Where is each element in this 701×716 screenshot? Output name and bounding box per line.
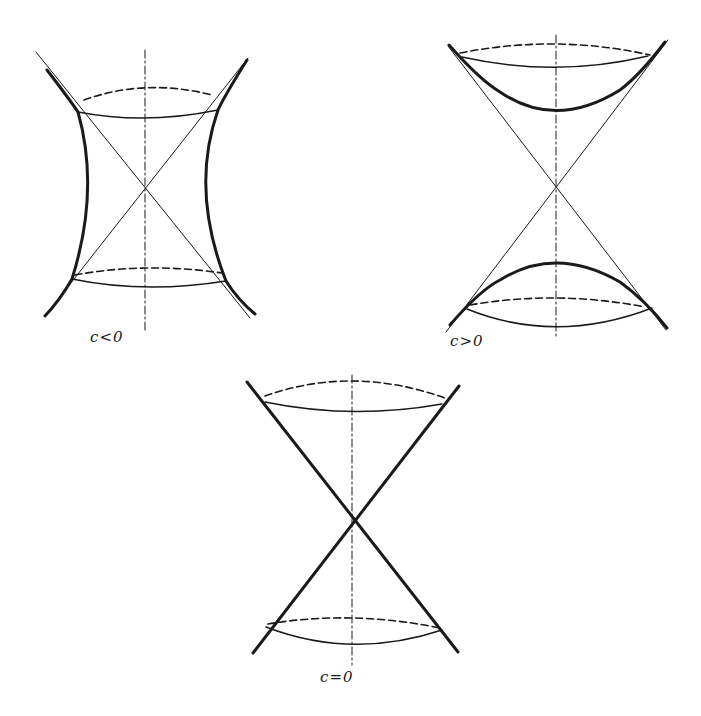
top-ellipse-front <box>265 402 442 412</box>
hyperboloid-right-profile <box>206 60 255 314</box>
bottom-ellipse-front <box>72 279 226 287</box>
top-ellipse-back <box>460 44 650 55</box>
lower-sheet <box>450 263 667 328</box>
top-ellipse-back <box>265 381 445 398</box>
label-c-equals-zero: c=0 <box>320 668 354 686</box>
top-ellipse-back <box>84 88 212 100</box>
bottom-ellipse-front <box>467 308 652 327</box>
bottom-ellipse-front <box>266 627 442 644</box>
panel-hyperboloid-one-sheet <box>36 50 255 330</box>
panel-hyperboloid-two-sheets <box>446 35 668 338</box>
panel-double-cone <box>247 375 459 665</box>
bottom-ellipse-back <box>268 618 440 628</box>
top-ellipse-front <box>462 56 648 67</box>
bottom-ellipse-back <box>470 298 645 307</box>
top-ellipse-front <box>78 110 218 118</box>
label-c-less-than-zero: c<0 <box>90 328 124 346</box>
upper-sheet <box>449 42 665 111</box>
bottom-ellipse-back <box>75 268 222 275</box>
asymptote-line <box>448 46 666 330</box>
asymptote-line <box>446 40 668 332</box>
quadric-surfaces-figure <box>0 0 701 716</box>
asymptote-line <box>36 52 250 318</box>
hyperboloid-left-profile <box>45 70 88 316</box>
label-c-greater-than-zero: c>0 <box>450 332 484 350</box>
